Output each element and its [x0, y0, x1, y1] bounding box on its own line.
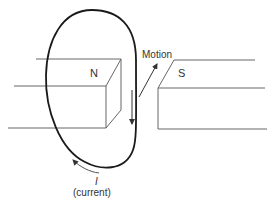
- south-pole-label: S: [178, 67, 185, 79]
- motion-label: Motion: [142, 49, 172, 60]
- current-symbol-label: I: [95, 176, 98, 187]
- north-pole-label: N: [90, 67, 98, 79]
- current-text-label: (current): [73, 187, 111, 198]
- wire-loop: [46, 10, 136, 168]
- faraday-diagram: N S Motion I (current): [0, 0, 270, 201]
- north-magnet: [8, 59, 121, 128]
- motion-arrow-icon: [139, 64, 157, 97]
- south-magnet: [158, 60, 267, 129]
